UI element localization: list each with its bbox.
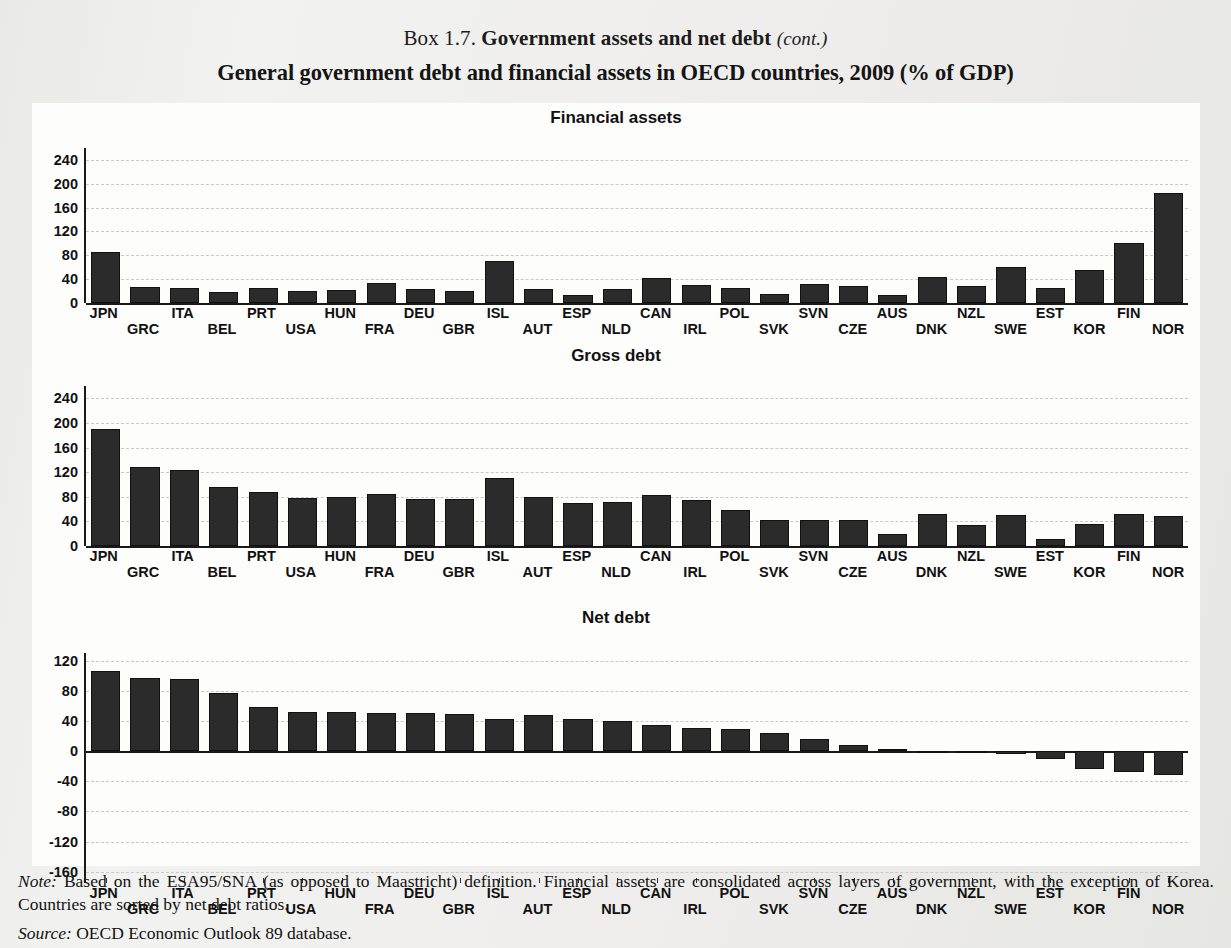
x-label-kor: KOR xyxy=(1070,564,1109,580)
x-label-bel: BEL xyxy=(202,321,241,337)
bar-aut xyxy=(524,289,553,303)
x-label-grc: GRC xyxy=(123,321,162,337)
y-tick-label: 40 xyxy=(62,713,78,729)
bar-ita xyxy=(170,470,199,546)
bar-swe xyxy=(996,751,1025,754)
bar-slot xyxy=(165,148,204,303)
bar-slot xyxy=(873,653,912,883)
bar-nld xyxy=(603,502,632,546)
bar-cze xyxy=(839,745,868,751)
bar-kor xyxy=(1075,270,1104,303)
bar-est xyxy=(1036,539,1065,546)
bar-gbr xyxy=(445,714,474,751)
x-label-fra: FRA xyxy=(360,564,399,580)
x-label-swe: SWE xyxy=(991,321,1030,337)
bar-slot xyxy=(283,148,322,303)
bar-swe xyxy=(996,267,1025,303)
bar-slot xyxy=(165,653,204,883)
bar-slot xyxy=(676,148,715,303)
x-label-aus: AUS xyxy=(872,548,911,564)
bar-grc xyxy=(130,287,159,303)
y-tick-label: 160 xyxy=(54,440,78,456)
note-text: Based on the ESA95/SNA (as opposed to Ma… xyxy=(18,871,1214,914)
x-label-usa: USA xyxy=(281,564,320,580)
x-label-aus: AUS xyxy=(872,305,911,321)
bar-svk xyxy=(760,294,789,303)
bar-dnk xyxy=(918,751,947,753)
bar-slot xyxy=(913,386,952,546)
bar-hun xyxy=(327,290,356,303)
bar-dnk xyxy=(918,277,947,303)
bar-svn xyxy=(800,284,829,303)
source-label: Source: xyxy=(18,923,72,943)
bar-slot xyxy=(86,386,125,546)
x-label-swe: SWE xyxy=(991,564,1030,580)
x-label-svk: SVK xyxy=(754,564,793,580)
bar-fin xyxy=(1114,751,1143,772)
bar-slot xyxy=(519,653,558,883)
y-axis-labels: 04080120160200240 xyxy=(32,148,78,303)
bar-nor xyxy=(1154,193,1183,303)
x-label-irl: IRL xyxy=(675,564,714,580)
y-tick-label: 40 xyxy=(62,513,78,529)
x-label-cze: CZE xyxy=(833,321,872,337)
plot-area: -160-120-80-4004080120 xyxy=(32,653,1200,883)
bar-prt xyxy=(249,707,278,751)
bar-slot xyxy=(243,653,282,883)
bar-slot xyxy=(204,148,243,303)
bar-deu xyxy=(406,289,435,303)
x-label-can: CAN xyxy=(636,548,675,564)
bar-slot xyxy=(362,386,401,546)
bar-cze xyxy=(839,286,868,303)
box-continued-marker: (cont.) xyxy=(777,28,828,49)
y-tick-label: 0 xyxy=(70,538,78,554)
x-label-gbr: GBR xyxy=(439,564,478,580)
bar-irl xyxy=(682,285,711,303)
bar-slot xyxy=(952,148,991,303)
x-label-deu: DEU xyxy=(399,548,438,564)
x-label-dnk: DNK xyxy=(912,321,951,337)
x-label-hun: HUN xyxy=(321,548,360,564)
bar-slot xyxy=(519,386,558,546)
bar-slot xyxy=(676,653,715,883)
x-label-aut: AUT xyxy=(518,564,557,580)
y-tick-label: 80 xyxy=(62,489,78,505)
note-paragraph: Note: Based on the ESA95/SNA (as opposed… xyxy=(18,870,1214,916)
bar-cze xyxy=(839,520,868,546)
y-tick-label: 40 xyxy=(62,271,78,287)
x-label-fin: FIN xyxy=(1109,305,1148,321)
bar-slot xyxy=(480,653,519,883)
y-axis-labels: 04080120160200240 xyxy=(32,386,78,546)
plot-area: 04080120160200240 xyxy=(32,386,1200,546)
bar-slot xyxy=(125,386,164,546)
bar-slot xyxy=(1031,386,1070,546)
x-label-grc: GRC xyxy=(123,564,162,580)
bar-hun xyxy=(327,712,356,751)
bar-slot xyxy=(598,148,637,303)
bar-series xyxy=(86,386,1188,546)
bar-usa xyxy=(288,712,317,751)
x-label-nld: NLD xyxy=(596,321,635,337)
bar-can xyxy=(642,725,671,751)
bar-slot xyxy=(125,148,164,303)
bar-slot xyxy=(716,653,755,883)
bar-slot xyxy=(86,148,125,303)
box-label: Box 1.7. xyxy=(403,26,476,50)
bar-slot xyxy=(1109,148,1148,303)
bar-svk xyxy=(760,733,789,751)
y-tick-label: 0 xyxy=(70,743,78,759)
bar-slot xyxy=(243,148,282,303)
y-tick-label: 80 xyxy=(62,247,78,263)
x-label-row: JPNGRCITABELPRTUSAHUNFRADEUGBRISLAUTESPN… xyxy=(84,548,1188,564)
x-label-can: CAN xyxy=(636,305,675,321)
bar-aus xyxy=(878,534,907,546)
bar-fin xyxy=(1114,243,1143,303)
x-label-esp: ESP xyxy=(557,305,596,321)
bar-slot xyxy=(480,148,519,303)
bar-slot xyxy=(1031,148,1070,303)
bar-slot xyxy=(637,148,676,303)
bar-usa xyxy=(288,291,317,303)
bar-slot xyxy=(204,653,243,883)
bar-gbr xyxy=(445,291,474,303)
bar-nld xyxy=(603,721,632,751)
